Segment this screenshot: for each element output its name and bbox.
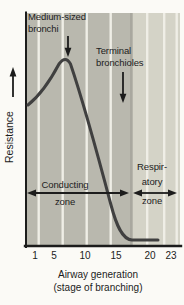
x-tick-5: 5 <box>51 250 57 261</box>
annotation-terminal-bronchioles-line2: bronchioles <box>96 57 156 69</box>
airway-resistance-figure: Resistance Medium-sized bronchi Terminal… <box>0 0 184 305</box>
respiratory-zone-label-line1: Respir- <box>126 161 178 173</box>
x-tick-10: 10 <box>79 250 90 261</box>
background-stripe <box>62 13 64 245</box>
x-tick-23: 23 <box>165 250 176 261</box>
respiratory-zone-label-line2: atory <box>126 176 178 188</box>
background-stripe <box>38 13 40 245</box>
x-axis-label-line1: Airway generation <box>24 269 172 280</box>
x-tick-20: 20 <box>144 250 155 261</box>
background-stripe <box>163 13 165 245</box>
x-tick-1: 1 <box>32 250 38 261</box>
annotation-medium-bronchi-line1: Medium-sized <box>28 11 98 23</box>
plot-canvas <box>0 0 184 305</box>
background-stripe <box>176 13 178 245</box>
annotation-terminal-bronchioles: Terminal bronchioles <box>96 45 156 68</box>
background-stripe <box>86 13 88 245</box>
y-axis-label: Resistance <box>3 102 15 172</box>
conducting-zone-label: Conducting <box>30 179 100 191</box>
annotation-terminal-bronchioles-line1: Terminal <box>96 45 156 57</box>
annotation-medium-bronchi: Medium-sized bronchi <box>28 11 98 34</box>
annotation-medium-bronchi-line2: bronchi <box>28 23 98 35</box>
x-axis-label-line2: (stage of branching) <box>24 282 172 293</box>
x-tick-15: 15 <box>110 250 121 261</box>
respiratory-zone-label-zone: zone <box>126 195 178 207</box>
conducting-zone-label-zone: zone <box>33 196 97 208</box>
resistance-increase-arrowhead <box>10 67 17 77</box>
